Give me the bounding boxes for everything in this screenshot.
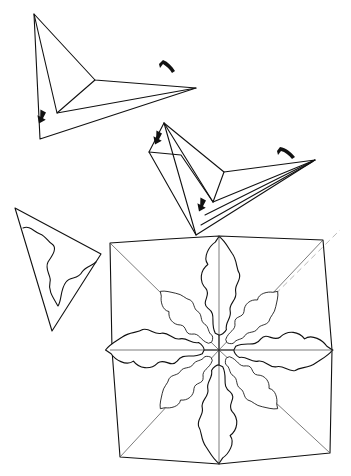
result-step bbox=[106, 230, 340, 464]
fold-arrow-icon bbox=[36, 109, 47, 124]
fold-step-2 bbox=[149, 123, 315, 235]
curved-arrow-icon bbox=[159, 60, 175, 73]
cut-step bbox=[15, 208, 101, 331]
fold-step-1 bbox=[34, 14, 196, 139]
curved-arrow-icon bbox=[277, 147, 295, 159]
fold-arrow-icon bbox=[196, 197, 207, 212]
instruction-diagram bbox=[0, 0, 351, 476]
